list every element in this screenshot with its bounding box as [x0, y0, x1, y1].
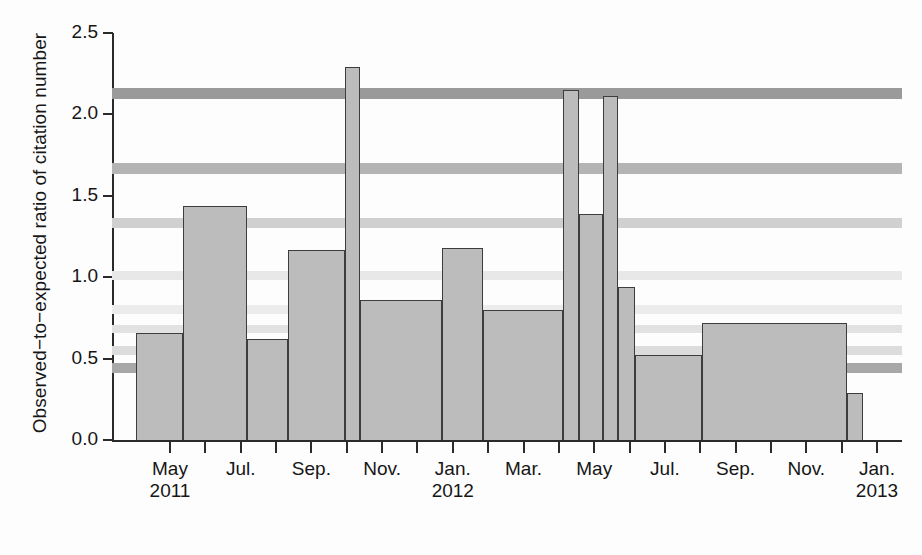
x-axis-tick: [805, 442, 807, 453]
x-axis-month-label: May: [152, 458, 188, 479]
x-axis-tick: [523, 442, 525, 453]
x-axis-year-label: 2011: [125, 480, 215, 502]
x-axis-month-label: Jul.: [226, 458, 256, 479]
x-axis-month-label: Jan.: [859, 458, 895, 479]
y-axis-tick-label: 0.5: [46, 347, 98, 369]
bar: [247, 339, 288, 440]
x-axis-month-label: May: [576, 458, 612, 479]
x-axis-month-label: Nov.: [363, 458, 401, 479]
x-axis-month-label: Mar.: [505, 458, 542, 479]
y-axis-tick-label: 2.0: [46, 102, 98, 124]
y-axis-tick-label: 1.0: [46, 265, 98, 287]
bar: [563, 90, 579, 440]
x-axis-tick: [629, 442, 631, 453]
plot-area: [112, 33, 902, 440]
x-axis-tick: [381, 442, 383, 453]
bar: [136, 333, 183, 440]
scan-artifact-band: [112, 163, 902, 174]
bar: [603, 96, 618, 440]
x-axis-tick: [664, 442, 666, 453]
x-axis-tick: [593, 442, 595, 453]
x-axis-month-label: Jan.: [435, 458, 471, 479]
x-axis-tick: [558, 442, 560, 453]
x-axis-tick: [876, 442, 878, 453]
x-axis-tick: [275, 442, 277, 453]
y-axis-tick-labels: 0.00.51.01.52.02.5: [40, 0, 98, 460]
bar: [847, 393, 863, 440]
citation-ratio-bar-chart: Observed−to−expected ratio of citation n…: [0, 0, 922, 555]
x-axis-tick: [346, 442, 348, 453]
x-axis-tick: [487, 442, 489, 453]
x-axis-month-label: Nov.: [787, 458, 825, 479]
bar: [345, 67, 360, 440]
x-axis-month-label: Sep.: [292, 458, 331, 479]
scan-artifact-band: [112, 88, 902, 99]
x-axis-tick: [169, 442, 171, 453]
x-axis-tick: [452, 442, 454, 453]
bar: [442, 248, 483, 440]
x-axis-month-label: Jul.: [650, 458, 680, 479]
x-axis-tick: [735, 442, 737, 453]
bar: [618, 287, 635, 440]
x-axis-tick: [770, 442, 772, 453]
bar: [635, 355, 702, 440]
x-axis-year-label: 2013: [832, 480, 922, 502]
bar: [702, 323, 847, 440]
x-axis-tick: [310, 442, 312, 453]
bar: [360, 300, 442, 440]
bar: [183, 206, 247, 440]
y-axis-tick-label: 2.5: [46, 21, 98, 43]
x-axis-tick: [240, 442, 242, 453]
y-axis-tick-label: 1.5: [46, 184, 98, 206]
x-axis-year-label: 2012: [408, 480, 498, 502]
bar: [288, 250, 345, 440]
x-axis-month-label: Sep.: [716, 458, 755, 479]
x-axis-tick: [699, 442, 701, 453]
bar: [579, 214, 603, 440]
bar: [483, 310, 563, 440]
x-axis-tick: [416, 442, 418, 453]
y-axis-tick-label: 0.0: [46, 428, 98, 450]
x-axis-tick: [841, 442, 843, 453]
x-axis-tick: [204, 442, 206, 453]
x-axis-line: [112, 440, 902, 442]
x-axis-tick-label: Jan.2013: [832, 458, 922, 502]
